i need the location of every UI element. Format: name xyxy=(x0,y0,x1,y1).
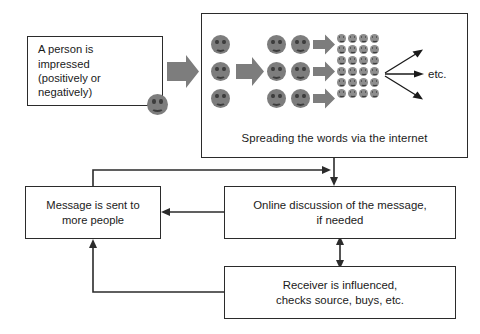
smiley-face-icon xyxy=(337,45,346,54)
arrowhead-receiver-to-message xyxy=(89,239,97,248)
smiley-face-icon xyxy=(211,62,230,81)
smiley-face-grid-cell xyxy=(337,89,348,100)
smiley-face-grid-cell xyxy=(359,67,370,78)
smiley-face-grid-cell xyxy=(370,56,381,67)
smiley-face-icon xyxy=(359,45,368,54)
smiley-face-grid-cell xyxy=(337,45,348,56)
connector-receiver-to-message xyxy=(93,243,224,292)
diagram-canvas: A person isimpressed(positively ornegati… xyxy=(0,0,480,334)
smiley-face-icon xyxy=(267,62,286,81)
smiley-face-icon xyxy=(337,89,346,98)
smiley-face-grid-cell xyxy=(370,67,381,78)
smiley-face-icon xyxy=(267,35,286,54)
node-receiver-influenced[interactable]: Receiver is influenced,checks source, bu… xyxy=(224,266,456,319)
smiley-face-grid-cell xyxy=(348,45,359,56)
arrowhead-discussion-to-message xyxy=(161,208,170,216)
smiley-face-icon xyxy=(359,56,368,65)
smiley-face-icon xyxy=(147,94,168,115)
smiley-face-icon xyxy=(337,67,346,76)
smiley-face-icon xyxy=(359,67,368,76)
smiley-face-grid-cell xyxy=(370,34,381,45)
node-person-impressed-label: A person isimpressed(positively ornegati… xyxy=(38,42,101,99)
smiley-face-grid-cell xyxy=(359,78,370,89)
smiley-face-grid-cell xyxy=(359,89,370,100)
smiley-face-icon xyxy=(370,56,379,65)
smiley-face-grid-cell xyxy=(370,89,381,100)
smiley-face-grid-cell xyxy=(337,67,348,78)
smiley-face-icon xyxy=(348,56,357,65)
smiley-face-grid-cell xyxy=(359,34,370,45)
smiley-face-icon xyxy=(348,45,357,54)
smiley-face-icon xyxy=(359,89,368,98)
smiley-face-grid-cell xyxy=(348,89,359,100)
smiley-face-icon xyxy=(337,78,346,87)
node-receiver-influenced-label: Receiver is influenced,checks source, bu… xyxy=(276,278,404,307)
node-message-sent[interactable]: Message is sent tomore people xyxy=(25,186,161,239)
smiley-face-icon xyxy=(359,78,368,87)
smiley-face-grid-cell xyxy=(348,34,359,45)
smiley-face-icon xyxy=(337,56,346,65)
smiley-face-icon xyxy=(370,78,379,87)
smiley-face-icon xyxy=(291,62,310,81)
smiley-face-icon xyxy=(348,78,357,87)
node-person-impressed[interactable]: A person isimpressed(positively ornegati… xyxy=(27,36,163,106)
smiley-face-grid-row xyxy=(337,45,381,56)
smiley-face-grid-cell xyxy=(370,45,381,56)
connector-message-to-discussion xyxy=(93,170,327,186)
smiley-face-grid-cell xyxy=(348,67,359,78)
smiley-face-icon xyxy=(348,34,357,43)
smiley-face-grid-cell xyxy=(348,56,359,67)
smiley-face-grid-row xyxy=(337,67,381,78)
smiley-face-icon xyxy=(370,45,379,54)
node-online-discussion[interactable]: Online discussion of the message,if need… xyxy=(224,186,456,239)
smiley-face-grid-cell xyxy=(348,78,359,89)
smiley-face-icon xyxy=(337,34,346,43)
arrowhead-message-to-discussion xyxy=(322,166,331,174)
smiley-face-grid-row xyxy=(337,78,381,89)
smiley-face-grid-cell xyxy=(337,78,348,89)
smiley-face-icon xyxy=(359,34,368,43)
smiley-face-icon xyxy=(370,89,379,98)
smiley-face-icon xyxy=(211,35,230,54)
smiley-face-grid-row xyxy=(337,89,381,100)
smiley-face-grid-row xyxy=(337,56,381,67)
smiley-face-grid-cell xyxy=(370,78,381,89)
smiley-face-grid-cell xyxy=(359,56,370,67)
node-online-discussion-label: Online discussion of the message,if need… xyxy=(253,198,427,227)
smiley-face-icon xyxy=(370,67,379,76)
smiley-face-grid-row xyxy=(337,34,381,45)
etc-label: etc. xyxy=(428,68,447,80)
smiley-face-grid-cell xyxy=(337,34,348,45)
smiley-face-grid-cell xyxy=(359,45,370,56)
smiley-face-icon xyxy=(348,67,357,76)
smiley-face-icon xyxy=(348,89,357,98)
smiley-face-icon xyxy=(267,89,286,108)
node-spreading-panel[interactable]: Spreading the words via the internet xyxy=(201,13,468,158)
smiley-face-icon xyxy=(291,35,310,54)
block-arrow-person-to-spread xyxy=(167,55,199,88)
spreading-caption: Spreading the words via the internet xyxy=(202,131,467,146)
smiley-face-icon xyxy=(370,34,379,43)
smiley-face-grid-cell xyxy=(337,56,348,67)
smiley-face-grid xyxy=(337,34,381,100)
node-message-sent-label: Message is sent tomore people xyxy=(46,198,139,227)
arrowhead-spread-to-discussion xyxy=(330,177,338,186)
smiley-face-icon xyxy=(211,89,230,108)
smiley-face-icon xyxy=(291,89,310,108)
